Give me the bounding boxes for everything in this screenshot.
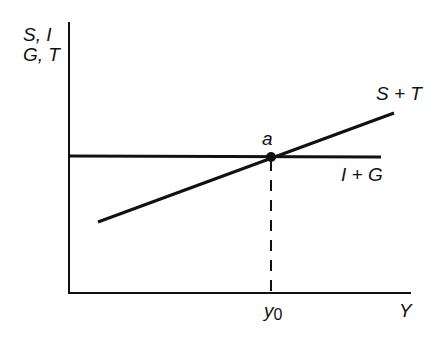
- equilibrium-output-label: y0: [264, 301, 282, 322]
- equilibrium-point: [266, 152, 276, 162]
- i-plus-g-label: I + G: [341, 165, 383, 185]
- x-axis-label: Y: [399, 301, 412, 321]
- y-axis-label-line2: G, T: [23, 45, 60, 65]
- y-axis-label-line1: S, I: [23, 25, 52, 45]
- y0-subscript: 0: [274, 306, 283, 323]
- i-plus-g-line: [69, 156, 381, 157]
- y0-main: y: [264, 300, 274, 321]
- equilibrium-point-label: a: [262, 129, 273, 149]
- s-plus-t-label: S + T: [376, 84, 422, 104]
